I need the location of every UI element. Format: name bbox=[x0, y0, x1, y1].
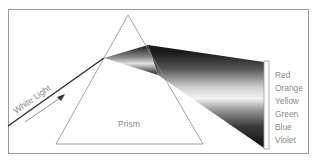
direction-arrow-icon bbox=[57, 94, 65, 101]
white-light-ray bbox=[8, 58, 104, 126]
spectrum-label-violet: Violet bbox=[275, 135, 296, 145]
spectrum-label-red: Red bbox=[275, 70, 291, 80]
projection-screen bbox=[264, 61, 269, 149]
spectrum-label-yellow: Yellow bbox=[275, 96, 300, 106]
spectrum-label-blue: Blue bbox=[275, 122, 292, 132]
spectrum-labels: Red Orange Yellow Green Blue Violet bbox=[275, 70, 303, 145]
dispersed-beam bbox=[148, 45, 264, 148]
spectrum-label-orange: Orange bbox=[275, 83, 303, 93]
prism-diagram: White Light Prism Red Orange Yellow Gree… bbox=[0, 0, 315, 164]
prism-label: Prism bbox=[118, 119, 140, 129]
spectrum-label-green: Green bbox=[275, 109, 299, 119]
